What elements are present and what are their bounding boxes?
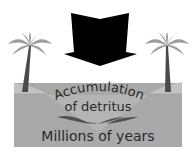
detritus-diagram: Accumulation of detritus Millions of yea… bbox=[0, 0, 194, 161]
detritus-label: of detritus bbox=[64, 99, 131, 114]
time-label: Millions of years bbox=[41, 128, 154, 144]
down-arrow-icon bbox=[64, 13, 137, 66]
